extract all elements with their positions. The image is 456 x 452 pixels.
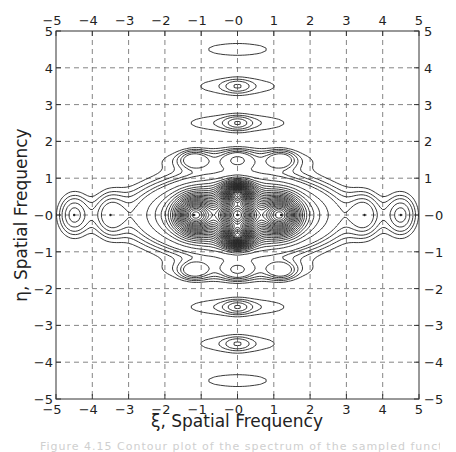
y-tick-label: −3	[424, 318, 443, 333]
y-tick-label: −1	[34, 245, 53, 260]
y-tick-label: 4	[45, 61, 53, 76]
y-tick-label: −1	[424, 245, 443, 260]
x-tick-label: 1	[270, 13, 278, 28]
y-tick-label: 1	[424, 171, 432, 186]
x-tick-label: 3	[342, 402, 350, 417]
y-tick-label: −5	[34, 392, 53, 407]
peak-marker	[400, 214, 402, 216]
y-tick-labels-left: −5−4−3−2−1−012345	[34, 24, 53, 407]
figure-caption: Figure 4.15 Contour plot of the spectrum…	[40, 440, 440, 452]
peak-marker	[193, 214, 195, 216]
y-tick-label: 5	[45, 24, 53, 39]
y-axis-label: η, Spatial Frequency	[11, 128, 31, 301]
x-tick-label: 2	[306, 13, 314, 28]
x-tick-label: 4	[379, 13, 387, 28]
contour-figure: −5−4−3−2−1−012345 −5−4−3−2−1−012345 −5−4…	[0, 0, 456, 452]
x-tick-label: −4	[79, 402, 98, 417]
y-tick-label: −0	[34, 208, 53, 223]
y-tick-labels-right: −5−4−3−2−1−012345	[424, 24, 443, 407]
y-tick-label: 2	[45, 134, 53, 149]
y-tick-label: −2	[424, 282, 443, 297]
y-tick-label: −4	[34, 355, 53, 370]
x-tick-label: −1	[188, 13, 207, 28]
y-tick-label: −3	[34, 318, 53, 333]
y-tick-label: 4	[424, 61, 432, 76]
x-tick-label: −4	[79, 13, 98, 28]
x-axis-label: ξ, Spatial Frequency	[151, 411, 323, 431]
peak-marker	[109, 214, 111, 216]
x-tick-label: 5	[415, 402, 423, 417]
peak-marker	[280, 214, 282, 216]
y-tick-label: 3	[45, 98, 53, 113]
x-tick-label: −2	[151, 13, 170, 28]
y-tick-label: 2	[424, 134, 432, 149]
peak-marker	[73, 214, 75, 216]
x-tick-label: −3	[115, 13, 134, 28]
x-tick-label: −3	[115, 402, 134, 417]
y-tick-label: −0	[424, 208, 443, 223]
y-tick-label: −2	[34, 282, 53, 297]
peak-marker	[236, 214, 238, 216]
x-tick-label: 4	[379, 402, 387, 417]
x-tick-label: −0	[224, 13, 243, 28]
x-tick-labels-top: −5−4−3−2−1−012345	[42, 13, 423, 28]
x-tick-label: 3	[342, 13, 350, 28]
peak-marker	[363, 214, 365, 216]
y-tick-label: 5	[424, 24, 432, 39]
y-tick-label: −5	[424, 392, 443, 407]
y-tick-label: 3	[424, 98, 432, 113]
y-tick-label: 1	[45, 171, 53, 186]
x-tick-label: 5	[415, 13, 423, 28]
y-tick-label: −4	[424, 355, 443, 370]
